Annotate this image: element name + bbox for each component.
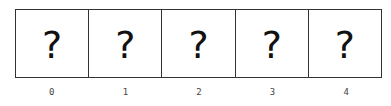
question-mark: ?: [42, 26, 62, 64]
question-mark: ?: [262, 26, 282, 64]
index-label: 0: [15, 87, 89, 97]
question-mark: ?: [188, 26, 208, 64]
question-mark: ?: [115, 26, 135, 64]
hidden-cards-row: ? ? ? ? ?: [15, 9, 382, 78]
question-mark: ?: [335, 26, 355, 64]
index-label: 4: [309, 87, 383, 97]
card-2[interactable]: ?: [162, 10, 235, 77]
index-label: 3: [236, 87, 310, 97]
index-label: 2: [162, 87, 236, 97]
card-0[interactable]: ?: [16, 10, 89, 77]
index-label: 1: [89, 87, 163, 97]
card-4[interactable]: ?: [309, 10, 381, 77]
index-labels: 0 1 2 3 4: [15, 87, 383, 97]
card-3[interactable]: ?: [236, 10, 309, 77]
card-1[interactable]: ?: [89, 10, 162, 77]
